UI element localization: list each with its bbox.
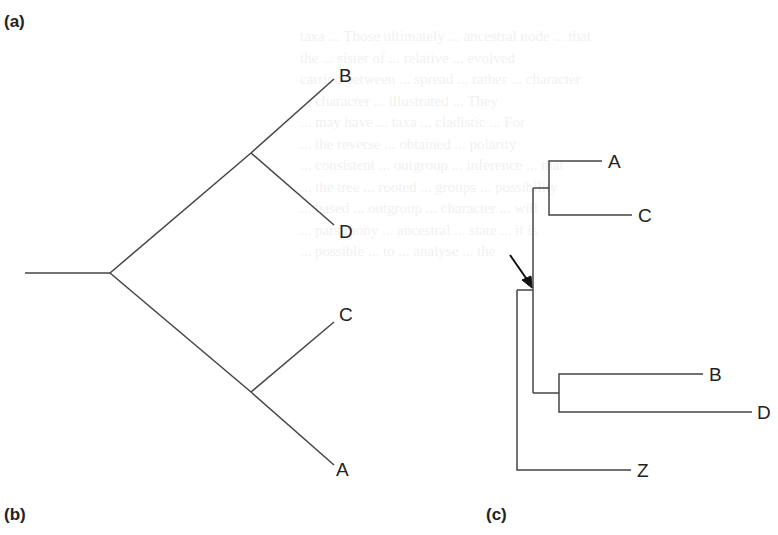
taxon-label-z: Z (637, 460, 649, 481)
branch-to-ca-clade (110, 273, 251, 392)
taxon-label-b: B (709, 364, 722, 385)
taxon-label-a: A (608, 151, 621, 172)
taxon-label-c: C (638, 205, 652, 226)
branch-d (251, 153, 334, 225)
branch-a (251, 392, 334, 465)
taxon-label-d: D (339, 221, 353, 242)
tree-ab: B D C A (25, 65, 353, 480)
clade-bd-bracket (559, 374, 752, 412)
tree-drawing: B D C A A C B D Z (0, 0, 778, 535)
branch-to-bd-clade (110, 153, 251, 273)
root-arrow-icon (510, 255, 532, 288)
phylogenetic-tree-figure: taxa ... Those ultimately ... ancestral … (0, 0, 778, 535)
branch-c (251, 322, 334, 392)
taxon-label-c: C (339, 304, 353, 325)
tree-c: A C B D Z (510, 151, 771, 481)
branch-b (251, 79, 334, 153)
taxon-label-d: D (757, 402, 771, 423)
taxon-label-a: A (336, 459, 349, 480)
taxon-label-b: B (339, 65, 352, 86)
outgroup-branch-z (517, 290, 631, 470)
